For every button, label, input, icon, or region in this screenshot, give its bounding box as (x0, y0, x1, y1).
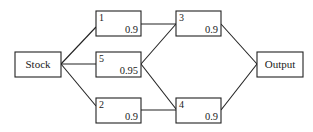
node-2-reliability: 0.9 (125, 111, 138, 122)
node-4-id: 4 (179, 99, 184, 110)
edge-5-to-4 (141, 64, 176, 109)
node-component-5: 5 0.95 (96, 52, 141, 77)
edge-stock-to-1 (61, 27, 96, 64)
node-component-3: 3 0.9 (176, 11, 221, 36)
edge-4-to-output (221, 64, 257, 110)
edge-5-to-3 (141, 24, 176, 64)
node-1-id: 1 (99, 12, 104, 23)
node-output: Output (257, 52, 303, 77)
node-5-id: 5 (99, 53, 104, 64)
node-output-label: Output (265, 58, 296, 70)
node-3-id: 3 (179, 12, 184, 23)
node-5-reliability: 0.95 (120, 65, 138, 76)
node-3-reliability: 0.9 (205, 24, 218, 35)
node-stock: Stock (15, 52, 61, 77)
node-component-1: 1 0.9 (96, 11, 141, 36)
node-stock-label: Stock (25, 58, 51, 70)
edge-3-to-output (221, 24, 257, 64)
node-component-2: 2 0.9 (96, 98, 141, 123)
node-1-reliability: 0.9 (125, 24, 138, 35)
node-4-reliability: 0.9 (205, 111, 218, 122)
edge-stock-to-2 (61, 64, 96, 106)
node-2-id: 2 (99, 99, 104, 110)
edges (61, 24, 257, 110)
node-component-4: 4 0.9 (176, 98, 221, 123)
reliability-network-diagram: Stock 1 0.9 5 0.95 2 0.9 3 0.9 4 0.9 Out… (0, 0, 313, 132)
